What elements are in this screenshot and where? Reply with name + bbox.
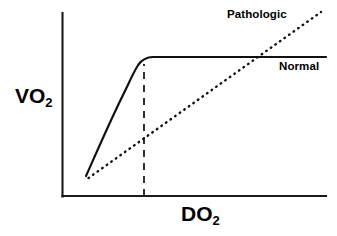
x-axis-title-text: DO (181, 202, 213, 225)
x-axis-title-subscript: 2 (213, 213, 220, 228)
y-axis-title-text: VO (15, 84, 45, 107)
y-axis-title-subscript: 2 (45, 95, 52, 110)
x-axis-title: DO2 (181, 203, 220, 224)
annotation-pathologic-label: Pathologic (227, 9, 287, 21)
chart-plot-area (0, 0, 337, 236)
series-normal-curve (86, 57, 326, 176)
y-axis-title: VO2 (15, 85, 53, 106)
annotation-normal-label: Normal (279, 61, 319, 73)
oxygen-delivery-consumption-chart: Pathologic Normal VO2 DO2 (0, 0, 337, 236)
